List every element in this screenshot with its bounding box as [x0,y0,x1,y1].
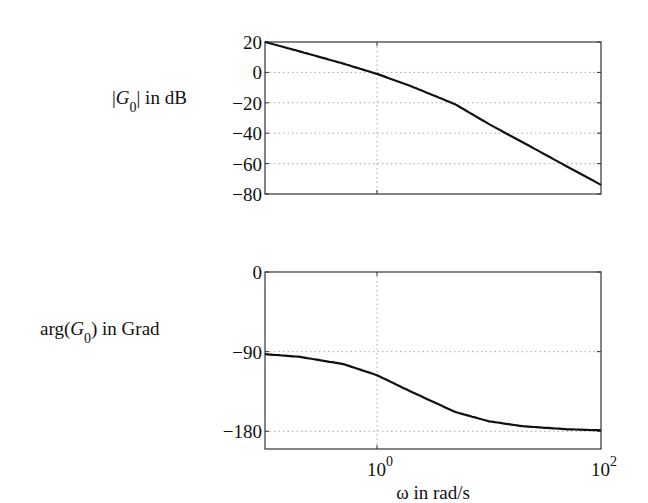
xtick-label: 102 [591,454,617,480]
magnitude-frame [265,42,601,194]
magnitude-ylabel: |G0| in dB [112,87,187,115]
ytick-label: 0 [253,62,263,83]
phase-curve [265,354,601,430]
ytick-label: −90 [232,342,262,363]
ytick-label: 0 [253,262,263,283]
xtick-label: 100 [367,454,393,480]
ytick-label: 20 [243,32,262,53]
ytick-label: −40 [232,123,262,144]
ytick-label: −60 [232,154,262,175]
phase-plot: 0−90−180 [223,262,601,449]
bode-plot: 200−20−40−60−80 0−90−180 |G0| in dBarg(G… [0,0,648,503]
ytick-label: −80 [232,184,262,205]
phase-ylabel: arg(G0) in Grad [40,318,160,346]
magnitude-plot: 200−20−40−60−80 [232,32,601,205]
ytick-label: −20 [232,93,262,114]
phase-xlabel: ω in rad/s [396,482,470,503]
ytick-label: −180 [223,421,262,442]
